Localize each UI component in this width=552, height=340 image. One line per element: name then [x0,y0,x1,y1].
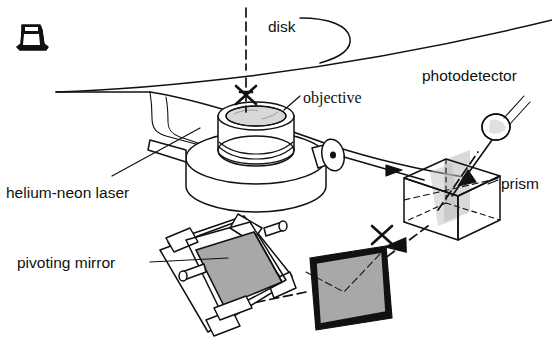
flat-fold-mirror [306,246,392,330]
label-prism: prism [501,175,539,192]
label-photodetector: photodetector [422,67,517,84]
label-helium-neon-laser: helium-neon laser [6,184,129,201]
diagram-svg: disk objective photodetector prism heliu… [0,0,552,340]
label-pivoting-mirror: pivoting mirror [17,254,115,271]
spindle-hub-icon [17,25,48,50]
pivoting-mirror-gimbal [160,214,296,336]
beam-output-tube [312,137,347,173]
figure-canvas: disk objective photodetector prism heliu… [0,0,552,340]
photodetector-body [482,96,530,140]
objective-assembly [148,102,326,212]
label-disk: disk [268,18,296,35]
label-objective: objective [303,89,362,107]
